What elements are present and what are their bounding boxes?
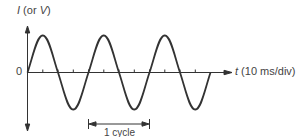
y-axis-down-arrow-icon: [25, 124, 29, 131]
x-axis-arrow-icon: [224, 70, 232, 74]
x-axis-label: t (10 ms/div): [235, 65, 296, 77]
y-axis-paren-open: (or: [20, 4, 40, 16]
cycle-label: 1 cycle: [104, 127, 135, 137]
origin-label: 0: [16, 65, 22, 77]
cycle-left-arrow-icon: [89, 122, 96, 126]
y-axis-up-arrow-icon: [25, 26, 29, 33]
x-axis-units: (10 ms/div): [238, 65, 295, 77]
y-axis-label: I (or V): [17, 4, 51, 16]
y-axis: [25, 26, 29, 131]
y-axis-alt-symbol: V: [40, 4, 47, 16]
cycle-right-arrow-icon: [142, 122, 149, 126]
y-axis-paren-close: ): [47, 4, 51, 16]
